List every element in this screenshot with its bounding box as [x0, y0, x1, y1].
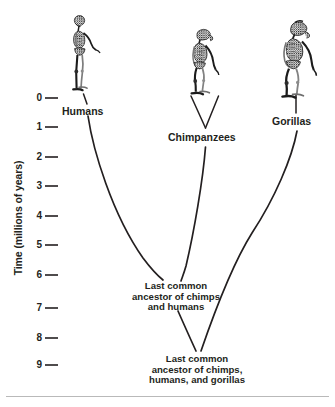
y-tick-label-3: 3	[26, 181, 42, 191]
y-tick-label-2: 2	[26, 152, 42, 162]
human-skeleton-icon	[73, 16, 100, 91]
y-tick-label-0: 0	[26, 93, 42, 103]
y-tick-label-9: 9	[26, 360, 42, 370]
branch-humans	[88, 116, 163, 280]
y-tick-label-1: 1	[26, 122, 42, 132]
bottom-divider	[6, 396, 329, 397]
branch-chimp-human-ancestor	[178, 311, 196, 351]
tree-branches-svg	[0, 0, 335, 407]
chimpanzee-skeleton-icon	[192, 29, 219, 94]
node-label-chimp-human-ancestor: Last common ancestor of chimps and human…	[115, 281, 237, 313]
tip-leader-lines	[84, 94, 297, 128]
y-tick-label-7: 7	[26, 303, 42, 313]
y-tick-label-6: 6	[26, 270, 42, 280]
branch-curves	[88, 116, 297, 351]
taxon-label-humans: Humans	[62, 105, 103, 117]
y-tick-label-5: 5	[26, 240, 42, 250]
node-label-chimp-human-gorilla-ancestor: Last common ancestor of chimps, humans, …	[130, 354, 264, 386]
y-tick-label-8: 8	[26, 333, 42, 343]
branch-gorillas	[201, 131, 297, 351]
chimp-tip-leader-left	[191, 96, 206, 128]
y-tick-label-4: 4	[26, 211, 42, 221]
gorilla-skeleton-icon	[282, 21, 316, 98]
taxon-label-gorillas: Gorillas	[272, 115, 311, 127]
phylogenetic-tree-figure: Time (millions of years) 0 1 2 3 4 5 6 7…	[0, 0, 335, 407]
human-tip-leader	[84, 94, 88, 104]
branch-chimpanzees	[181, 147, 206, 281]
axis-tick-marks	[45, 98, 58, 365]
taxon-label-chimpanzees: Chimpanzees	[168, 131, 236, 143]
y-axis-title: Time (millions of years)	[12, 143, 24, 293]
chimp-tip-leader-right	[206, 96, 219, 128]
